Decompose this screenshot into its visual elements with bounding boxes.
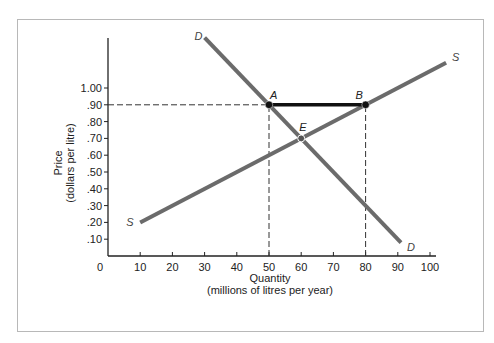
supply-label-end: S: [452, 51, 460, 63]
supply-demand-chart: 0102030405060708090100 .10.20.30.40.50.6…: [0, 0, 494, 343]
x-tick-label: 60: [295, 261, 307, 273]
x-tick-label: 100: [421, 261, 439, 273]
supply-label-start: S: [126, 216, 134, 228]
curves: DDSS: [126, 30, 460, 253]
x-tick-label: 0: [97, 261, 103, 273]
y-ticks: .10.20.30.40.50.60.70.80.901.00: [81, 82, 108, 245]
y-tick-label: .10: [87, 233, 102, 245]
axes: [108, 38, 436, 256]
demand-label-start: D: [195, 30, 203, 42]
point-b: [362, 101, 370, 109]
supply-curve: [140, 63, 446, 223]
x-tick-label: 30: [198, 261, 210, 273]
x-tick-label: 10: [134, 261, 146, 273]
y-tick-label: .60: [87, 149, 102, 161]
y-tick-label: .50: [87, 166, 102, 178]
point-label-a: A: [269, 89, 277, 101]
x-axis-title: Quantity: [250, 272, 291, 284]
x-tick-label: 20: [166, 261, 178, 273]
point-a: [265, 101, 273, 109]
demand-label-end: D: [407, 241, 415, 253]
reference-lines: [108, 105, 366, 256]
point-e: [298, 135, 305, 142]
y-tick-label: .20: [87, 216, 102, 228]
x-axis-subtitle: (millions of litres per year): [207, 284, 333, 296]
x-tick-label: 80: [359, 261, 371, 273]
y-tick-label: 1.00: [81, 82, 102, 94]
y-tick-label: .40: [87, 183, 102, 195]
x-tick-label: 40: [231, 261, 243, 273]
y-tick-label: .90: [87, 99, 102, 111]
y-axis-title: Price: [52, 150, 64, 175]
x-tick-label: 70: [327, 261, 339, 273]
y-tick-label: .30: [87, 200, 102, 212]
y-axis-subtitle: (dollars per litre): [64, 123, 76, 202]
y-tick-label: .80: [87, 116, 102, 128]
point-label-e: E: [299, 121, 307, 133]
x-tick-label: 90: [392, 261, 404, 273]
x-ticks: 0102030405060708090100: [97, 252, 439, 273]
point-label-b: B: [356, 89, 363, 101]
y-tick-label: .70: [87, 132, 102, 144]
